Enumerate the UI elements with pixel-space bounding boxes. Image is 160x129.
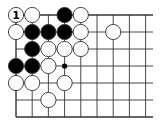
- board-markers: [62, 63, 67, 68]
- stone-move-number: 1: [12, 9, 20, 22]
- white-stone: [57, 41, 72, 56]
- white-stone: [73, 7, 88, 22]
- white-stone: [41, 92, 56, 107]
- white-stone: [73, 24, 88, 39]
- white-stone: 1: [8, 7, 23, 22]
- white-stone: [25, 7, 40, 22]
- white-stone: [106, 24, 121, 39]
- black-stone: [57, 24, 72, 39]
- white-stone: [8, 24, 23, 39]
- white-stone: [25, 75, 40, 90]
- point-marker-dot: [62, 63, 67, 68]
- white-stone: [57, 75, 72, 90]
- black-stone: [57, 7, 72, 22]
- black-stone: [25, 24, 40, 39]
- white-stone: [41, 41, 56, 56]
- white-stone: [8, 75, 23, 90]
- black-stone: [41, 24, 56, 39]
- black-stone: [8, 58, 23, 73]
- white-stone: [41, 58, 56, 73]
- white-stone: [73, 41, 88, 56]
- black-stone: [25, 41, 40, 56]
- go-board[interactable]: 1: [0, 0, 160, 129]
- black-stone: [25, 58, 40, 73]
